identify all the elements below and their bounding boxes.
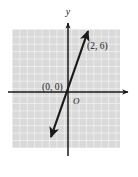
- coordinate-plane-figure: y O (0, 0) (2, 6): [0, 0, 138, 177]
- graph-canvas: y O (0, 0) (2, 6): [0, 0, 138, 177]
- second-point-label: (2, 6): [87, 41, 108, 52]
- origin-label: O: [73, 96, 80, 106]
- y-axis-label: y: [65, 6, 71, 17]
- origin-point-label: (0, 0): [42, 82, 63, 93]
